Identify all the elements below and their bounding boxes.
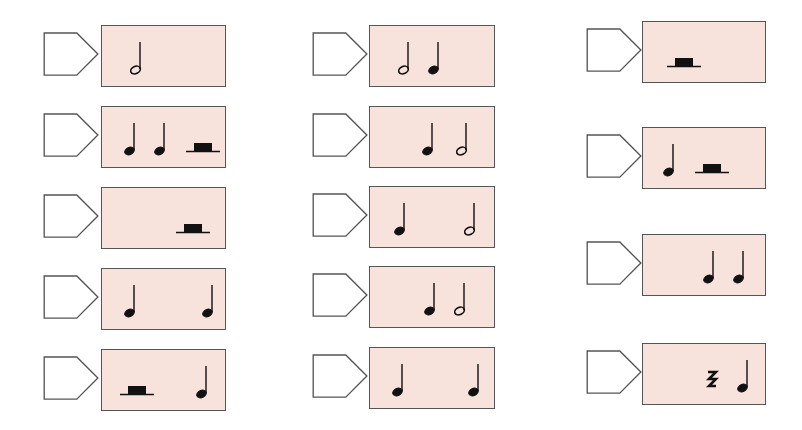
half-note-icon xyxy=(130,40,144,80)
half-rest-icon xyxy=(691,142,735,182)
rhythm-box xyxy=(642,343,766,405)
rhythm-box xyxy=(369,186,495,248)
half-rest-icon xyxy=(116,364,160,404)
quarter-note-icon xyxy=(124,121,138,161)
answer-tag[interactable] xyxy=(586,134,644,180)
quarter-note-icon xyxy=(202,283,216,323)
quarter-note-icon xyxy=(428,40,442,80)
answer-tag[interactable] xyxy=(312,32,370,78)
quarter-note-icon xyxy=(394,201,408,241)
quarter-note-icon xyxy=(124,283,138,323)
quarter-note-icon xyxy=(663,142,677,182)
rhythm-box xyxy=(369,347,495,409)
quarter-note-icon xyxy=(392,362,406,402)
answer-tag[interactable] xyxy=(43,356,101,402)
quarter-note-icon xyxy=(196,364,210,404)
quarter-note-icon xyxy=(468,362,482,402)
rhythm-box xyxy=(101,25,226,87)
rhythm-box xyxy=(642,21,766,83)
half-rest-icon xyxy=(172,202,216,242)
half-rest-icon xyxy=(663,36,707,76)
answer-tag[interactable] xyxy=(43,194,101,240)
rhythm-box xyxy=(369,266,495,328)
answer-tag[interactable] xyxy=(43,32,101,78)
rhythm-box xyxy=(101,106,226,168)
answer-tag[interactable] xyxy=(312,113,370,159)
half-rest-icon xyxy=(182,121,226,161)
rhythm-box xyxy=(369,106,495,168)
quarter-note-icon xyxy=(154,121,168,161)
half-note-icon xyxy=(464,201,478,241)
half-note-icon xyxy=(454,281,468,321)
answer-tag[interactable] xyxy=(312,193,370,239)
rhythm-box xyxy=(101,187,226,249)
rhythm-box xyxy=(642,234,766,296)
quarter-note-icon xyxy=(703,249,717,289)
answer-tag[interactable] xyxy=(312,273,370,319)
quarter-note-icon xyxy=(422,121,436,161)
rhythm-box xyxy=(101,268,226,330)
quarter-note-icon xyxy=(424,281,438,321)
answer-tag[interactable] xyxy=(43,275,101,321)
quarter-rest-icon xyxy=(705,358,719,398)
answer-tag[interactable] xyxy=(312,354,370,400)
answer-tag[interactable] xyxy=(586,241,644,287)
rhythm-box xyxy=(369,25,495,87)
answer-tag[interactable] xyxy=(43,113,101,159)
quarter-note-icon xyxy=(737,358,751,398)
half-note-icon xyxy=(398,40,412,80)
half-note-icon xyxy=(456,121,470,161)
answer-tag[interactable] xyxy=(586,350,644,396)
rhythm-box xyxy=(642,127,766,189)
answer-tag[interactable] xyxy=(586,28,644,74)
quarter-note-icon xyxy=(733,249,747,289)
rhythm-box xyxy=(101,349,226,411)
